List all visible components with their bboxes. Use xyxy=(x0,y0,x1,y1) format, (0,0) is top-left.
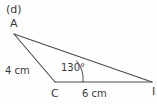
part-label: (d) xyxy=(6,4,22,15)
vertex-label-i: I xyxy=(152,86,155,97)
vertex-label-c: C xyxy=(51,88,59,99)
side-length-label-ac: 4 cm xyxy=(5,66,30,76)
triangle-diagram xyxy=(0,0,157,104)
geometry-figure: (d) A C I 4 cm 6 cm 130° xyxy=(0,0,157,104)
angle-measure-label-c: 130° xyxy=(61,63,85,73)
vertex-label-a: A xyxy=(10,18,18,29)
side-length-label-ci: 6 cm xyxy=(82,89,107,99)
